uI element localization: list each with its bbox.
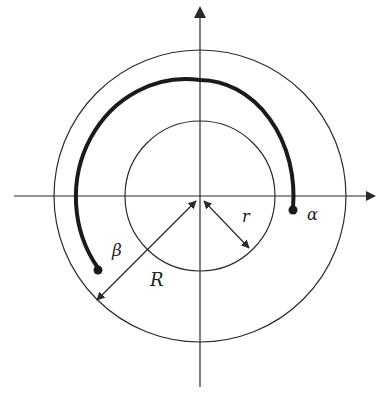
alpha-endpoint-dot <box>289 206 298 215</box>
beta-label: β <box>111 240 122 260</box>
outer-radius-label: R <box>149 269 164 290</box>
inner-radius-label: r <box>242 207 251 226</box>
x-axis-arrow-icon <box>366 191 376 201</box>
alpha-label: α <box>307 205 318 224</box>
y-axis-arrow-icon <box>194 6 206 18</box>
x-axis <box>14 191 376 201</box>
beta-endpoint-dot <box>94 266 103 275</box>
diagram-canvas: α β R r <box>0 0 376 398</box>
